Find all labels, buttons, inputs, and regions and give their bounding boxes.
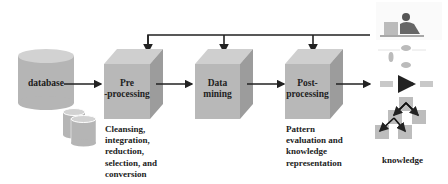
postprocessing-desc-line: representation <box>286 158 343 169</box>
preprocessing-desc-line: selection, and <box>105 158 157 169</box>
preprocessing-desc-line: reduction, <box>105 146 157 157</box>
datamining-label-line2: mining <box>195 89 240 100</box>
pattern-transform-icon <box>380 81 433 87</box>
postprocessing-description: Pattern evaluation and knowledge represe… <box>286 124 343 169</box>
preprocessing-desc-line: integration, <box>105 135 157 146</box>
postprocessing-desc-line: knowledge <box>286 146 343 157</box>
postprocessing-label-line2: processing <box>285 89 330 100</box>
preprocessing-desc-line: conversion <box>105 169 157 180</box>
small-database-icon <box>63 109 96 147</box>
preprocessing-label-line2: -processing <box>104 89 150 100</box>
datamining-label-line1: Data <box>195 78 240 89</box>
knowledge-label: knowledge <box>382 155 423 166</box>
postprocessing-desc-line: evaluation and <box>286 135 343 146</box>
postprocessing-desc-line: Pattern <box>286 124 343 135</box>
postprocessing-label-line1: Post- <box>285 78 330 89</box>
preprocessing-description: Cleansing, integration, reduction, selec… <box>105 124 157 180</box>
preprocessing-label-line1: Pre <box>104 78 150 89</box>
database-label: database <box>28 78 64 89</box>
preprocessing-desc-line: Cleansing, <box>105 124 157 135</box>
concept-ellipses-icon <box>378 45 426 68</box>
knowledge-tree-icon <box>375 97 426 139</box>
person-computer-icon <box>376 2 442 40</box>
